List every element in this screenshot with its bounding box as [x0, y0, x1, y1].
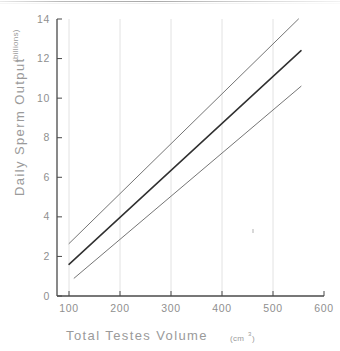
- y-axis-title-group: Daily Sperm Output (billions): [11, 29, 27, 196]
- x-tick-label-100: 100: [59, 302, 78, 314]
- x-tick-label-300: 300: [161, 302, 180, 314]
- y-tick-label-8: 8: [44, 131, 50, 143]
- series-line-regression-line: [69, 51, 301, 265]
- y-tick-label-10: 10: [37, 92, 50, 104]
- x-axis-unit: (cm: [230, 334, 244, 343]
- y-tick-label-2: 2: [44, 250, 50, 262]
- x-axis-title: Total Testes Volume: [66, 328, 208, 343]
- series-line-upper-confidence-limit: [69, 19, 299, 244]
- x-tick-label-400: 400: [212, 302, 231, 314]
- y-tick-label-6: 6: [44, 171, 50, 183]
- y-tick-label-4: 4: [44, 210, 50, 222]
- x-tick-marks-group: [69, 291, 324, 296]
- x-tick-labels-group: 100200300400500600: [59, 302, 333, 314]
- x-tick-label-200: 200: [110, 302, 129, 314]
- x-axis-title-group: Total Testes Volume (cm 3 ): [66, 328, 255, 343]
- y-tick-label-0: 0: [44, 290, 50, 302]
- x-axis-unit-close-paren: ): [252, 334, 255, 343]
- chart-plot-svg: 02468101214 100200300400500600 Daily Spe…: [0, 0, 340, 351]
- y-tick-label-14: 14: [37, 13, 50, 25]
- y-tick-labels-group: 02468101214: [37, 13, 50, 302]
- series-line-lower-confidence-limit: [74, 86, 301, 278]
- y-axis-unit: (billions): [11, 29, 20, 62]
- chart-figure: 02468101214 100200300400500600 Daily Spe…: [0, 0, 340, 351]
- y-tick-marks-group: [57, 19, 62, 296]
- y-tick-label-12: 12: [37, 52, 50, 64]
- gridlines-group: [69, 19, 273, 296]
- x-tick-label-600: 600: [314, 302, 333, 314]
- y-axis-title: Daily Sperm Output: [12, 57, 27, 196]
- axes-group: [57, 19, 324, 296]
- data-series-group: [69, 19, 301, 278]
- x-tick-label-500: 500: [263, 302, 282, 314]
